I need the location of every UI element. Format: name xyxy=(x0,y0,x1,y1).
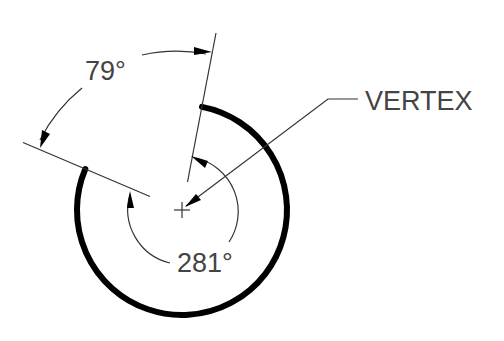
angle-diagram: 79° 281° VERTEX xyxy=(0,0,504,341)
angle-label-79: 79° xyxy=(85,56,126,86)
dimension-arc-281-right xyxy=(196,158,238,242)
arrowhead-79-left xyxy=(40,130,50,148)
dimension-arc-281-left xyxy=(128,194,170,263)
extension-line-157 xyxy=(23,143,150,197)
vertex-label: VERTEX xyxy=(365,86,473,116)
arrowhead-281-top xyxy=(191,156,208,168)
angle-label-281: 281° xyxy=(177,248,233,278)
